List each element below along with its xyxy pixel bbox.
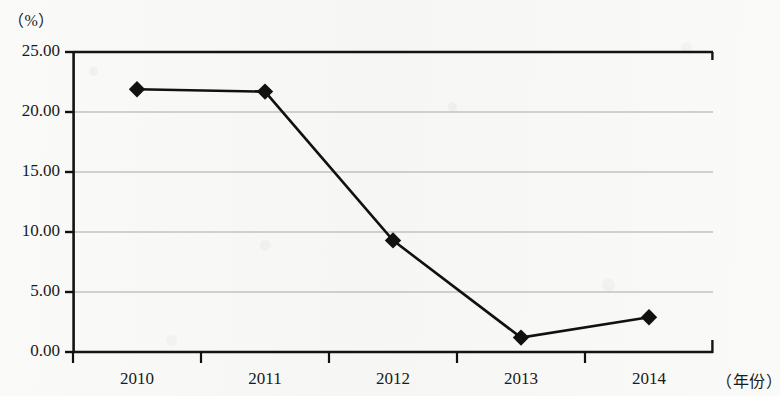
y-axis-tick-label: 20.00 — [0, 101, 60, 121]
x-axis-ticks-group — [73, 352, 585, 363]
y-axis-tick-label: 25.00 — [0, 41, 60, 61]
x-axis-tick-label: 2014 — [585, 369, 713, 389]
y-axis-unit-label: （%） — [8, 7, 55, 31]
data-point-marker — [641, 309, 657, 325]
x-axis-tick-label: 2011 — [201, 369, 329, 389]
gridlines-group — [73, 112, 713, 292]
x-axis-unit-label: （年份） — [716, 368, 780, 392]
y-axis-tick-label: 0.00 — [0, 341, 60, 361]
x-axis-tick-label: 2013 — [457, 369, 585, 389]
series-markers-group — [129, 81, 657, 346]
series-line-path — [137, 89, 649, 337]
y-axis-tick-label: 5.00 — [0, 281, 60, 301]
data-point-marker — [129, 81, 145, 97]
y-axis-tick-label: 10.00 — [0, 221, 60, 241]
line-chart-figure: （%） （年份） 0.005.0010.0015.0020.0025.00 20… — [0, 0, 780, 396]
x-axis-tick-label: 2010 — [73, 369, 201, 389]
y-axis-tick-label: 15.00 — [0, 161, 60, 181]
data-series-group — [129, 81, 657, 346]
axis-lines-group — [73, 51, 713, 353]
y-axis-ticks-group — [65, 52, 73, 352]
x-axis-tick-label: 2012 — [329, 369, 457, 389]
chart-plot-area — [0, 0, 780, 396]
